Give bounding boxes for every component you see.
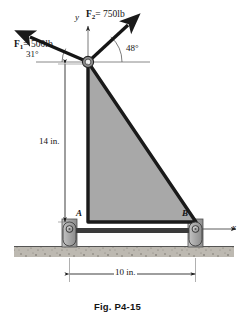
x-axis-label: x bbox=[232, 223, 236, 232]
dimension-line-height bbox=[58, 64, 88, 222]
pin-support-b bbox=[189, 222, 202, 246]
angle-label-31: 31° bbox=[26, 50, 39, 59]
force-equals-f1: = bbox=[23, 39, 28, 49]
force-label-f2: F2= 750lb bbox=[86, 10, 125, 21]
support-label-b: B bbox=[182, 209, 188, 218]
bottom-beam bbox=[72, 228, 194, 233]
figure-caption: Fig. P4-15 bbox=[94, 302, 141, 312]
force-unit-f1: lb bbox=[45, 39, 52, 49]
ground-surface bbox=[14, 246, 234, 257]
triangular-bracket-body bbox=[88, 62, 196, 222]
dimension-label-height: 14 in. bbox=[38, 137, 61, 146]
dimension-label-span: 10 in. bbox=[114, 268, 137, 277]
angle-label-48: 48° bbox=[126, 44, 139, 53]
force-unit-f2: lb bbox=[117, 9, 124, 19]
force-magnitude-f2: 750 bbox=[103, 9, 117, 19]
force-vector-f2 bbox=[88, 25, 128, 62]
force-magnitude-f1: 500 bbox=[31, 39, 45, 49]
y-axis-label: y bbox=[75, 13, 79, 22]
apex-pin-joint bbox=[82, 56, 93, 67]
support-label-a: A bbox=[76, 209, 82, 218]
pin-support-a bbox=[63, 222, 76, 246]
force-equals-f2: = bbox=[95, 9, 100, 19]
figure-p4-15: F1= 500lb F2= 750lb 31° 48° y x A B 14 i… bbox=[0, 0, 248, 323]
